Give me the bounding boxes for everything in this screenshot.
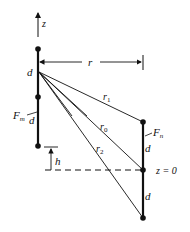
left-antenna-bottom-dot [35, 143, 41, 149]
r-label: r [88, 56, 93, 68]
h-label: h [55, 155, 61, 167]
fn-leader-line [145, 133, 152, 136]
left-upper-d-label: d [27, 66, 33, 78]
r1-label: r1 [103, 91, 111, 104]
right-upper-d-label: d [145, 142, 151, 154]
z-equals-zero-label: z = 0 [155, 165, 177, 176]
fn-label: Fn [152, 126, 164, 140]
z-axis-label: z [41, 18, 46, 29]
antenna-geometry-diagram: z r r1 r0 r2 d d Fm h z = 0 Fn d d [0, 0, 190, 232]
distance-line-r2 [39, 72, 143, 218]
fm-label: Fm [12, 109, 25, 123]
distance-line-b [39, 72, 87, 116]
right-lower-d-label: d [145, 190, 151, 202]
left-antenna-mid-dot [35, 94, 41, 100]
left-lower-d-label: d [29, 114, 35, 126]
r0-label: r0 [100, 121, 108, 134]
distance-line-r1 [39, 72, 143, 122]
left-antenna-top-dot [35, 46, 41, 52]
distance-line-a [39, 72, 72, 116]
